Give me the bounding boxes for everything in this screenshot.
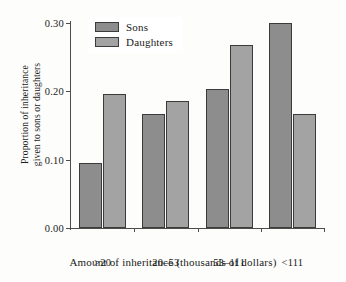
legend-label-sons: Sons [126,21,148,33]
bar-sons-1 [142,114,165,228]
y-tick-mark [66,160,71,161]
y-tick-mark [66,228,71,229]
x-tick-mark-2 [261,228,262,232]
legend-swatch-sons [95,22,119,32]
y-tick-label: 0.20 [45,86,64,97]
legend-item-sons: Sons [95,21,173,33]
y-tick-label: 0.00 [45,223,64,234]
y-axis-title: Proportion of inheritance given to sons … [14,0,48,229]
y-axis-title-line-2: given to sons or daughters [31,63,43,166]
x-tick-mark-1 [198,228,199,232]
y-tick-label: 0.10 [45,154,64,165]
y-tick-mark [66,23,71,24]
y-axis-title-line-1: Proportion of inheritance [20,63,32,166]
bar-chart-figure: Proportion of inheritance given to sons … [0,0,346,282]
legend-item-daughters: Daughters [95,36,173,48]
y-tick-label: 0.30 [45,18,64,29]
bar-daughters-2 [230,45,253,228]
bar-daughters-0 [103,94,126,228]
x-tick-mark-3 [324,228,325,232]
bar-daughters-1 [166,101,189,228]
bar-daughters-3 [293,114,316,228]
x-tick-mark-0 [134,228,135,232]
plot-area: 0.000.100.200.30 >2020–5353–111<111 [71,23,324,228]
legend-label-daughters: Daughters [126,36,173,48]
x-axis-title: Amount of inheritance (thousands of doll… [0,256,346,268]
bar-sons-0 [79,163,102,228]
legend-swatch-daughters [95,37,119,47]
bar-sons-2 [206,89,229,228]
y-tick-mark [66,91,71,92]
chart-legend: Sons Daughters [88,17,183,53]
bar-sons-3 [269,23,292,228]
